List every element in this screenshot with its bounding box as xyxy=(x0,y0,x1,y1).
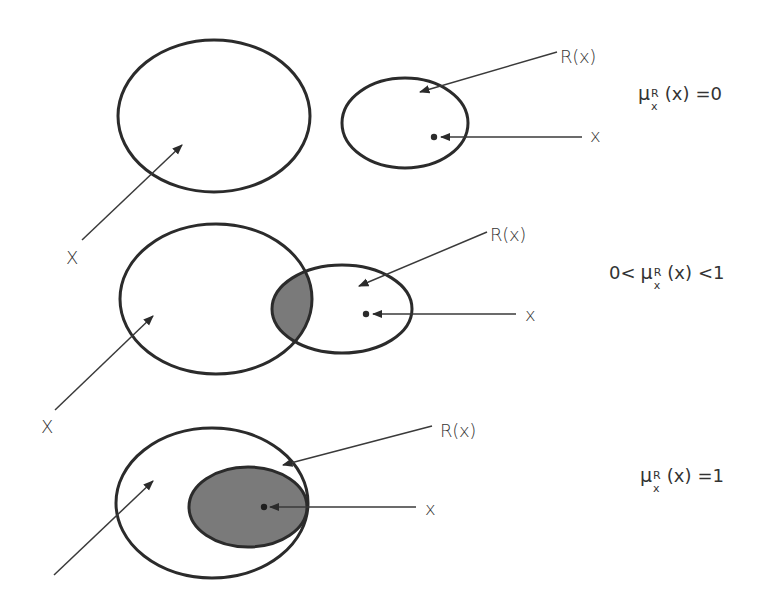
relation-r-ellipse xyxy=(342,78,468,168)
formula-prefix: 0< xyxy=(609,264,636,282)
formula-indices: R x xyxy=(653,476,661,498)
formula-superscript: R xyxy=(653,470,661,481)
relation-r-arrow xyxy=(359,232,487,286)
relation-r-label: R(x) xyxy=(490,226,526,244)
relation-r-label: R(x) xyxy=(440,422,476,440)
panel-partial-overlap xyxy=(55,224,516,410)
formula-suffix: =1 xyxy=(697,467,724,485)
membership-formula: μ R x (x) =0 xyxy=(638,84,722,113)
element-x-dot xyxy=(431,134,437,140)
formula-superscript: R xyxy=(651,88,659,99)
set-x-arrow xyxy=(55,316,153,410)
formula-subscript: x xyxy=(651,101,659,112)
element-x-dot xyxy=(363,311,369,317)
set-x-label: X xyxy=(66,249,78,267)
formula-subscript: x xyxy=(653,483,661,494)
mu-symbol: μ xyxy=(641,263,653,282)
set-x-label: X xyxy=(41,418,53,436)
panel-no-overlap xyxy=(82,40,582,240)
mu-symbol: μ xyxy=(640,466,652,485)
element-x-label: x xyxy=(525,306,535,324)
membership-formula: μ R x (x) =1 xyxy=(640,466,724,495)
set-x-arrow xyxy=(82,145,182,240)
formula-argument: (x) xyxy=(665,85,690,103)
panel-full-containment xyxy=(54,426,432,578)
element-x-dot xyxy=(261,504,267,510)
relation-r-label: R(x) xyxy=(560,48,596,66)
set-x-ellipse xyxy=(118,40,310,192)
relation-r-arrow xyxy=(420,52,557,92)
set-x-arrow xyxy=(54,481,153,575)
formula-indices: R x xyxy=(651,94,659,116)
mu-symbol: μ xyxy=(638,84,650,103)
formula-subscript: x xyxy=(654,280,662,291)
formula-suffix: <1 xyxy=(698,264,725,282)
formula-superscript: R xyxy=(654,267,662,278)
formula-argument: (x) xyxy=(667,264,692,282)
element-x-label: x xyxy=(425,500,435,518)
element-x-label: x xyxy=(590,127,600,145)
formula-indices: R x xyxy=(654,273,662,295)
formula-suffix: =0 xyxy=(695,85,722,103)
formula-argument: (x) xyxy=(667,467,692,485)
relation-r-arrow xyxy=(283,426,432,465)
membership-formula: 0< μ R x (x) <1 xyxy=(609,263,725,292)
